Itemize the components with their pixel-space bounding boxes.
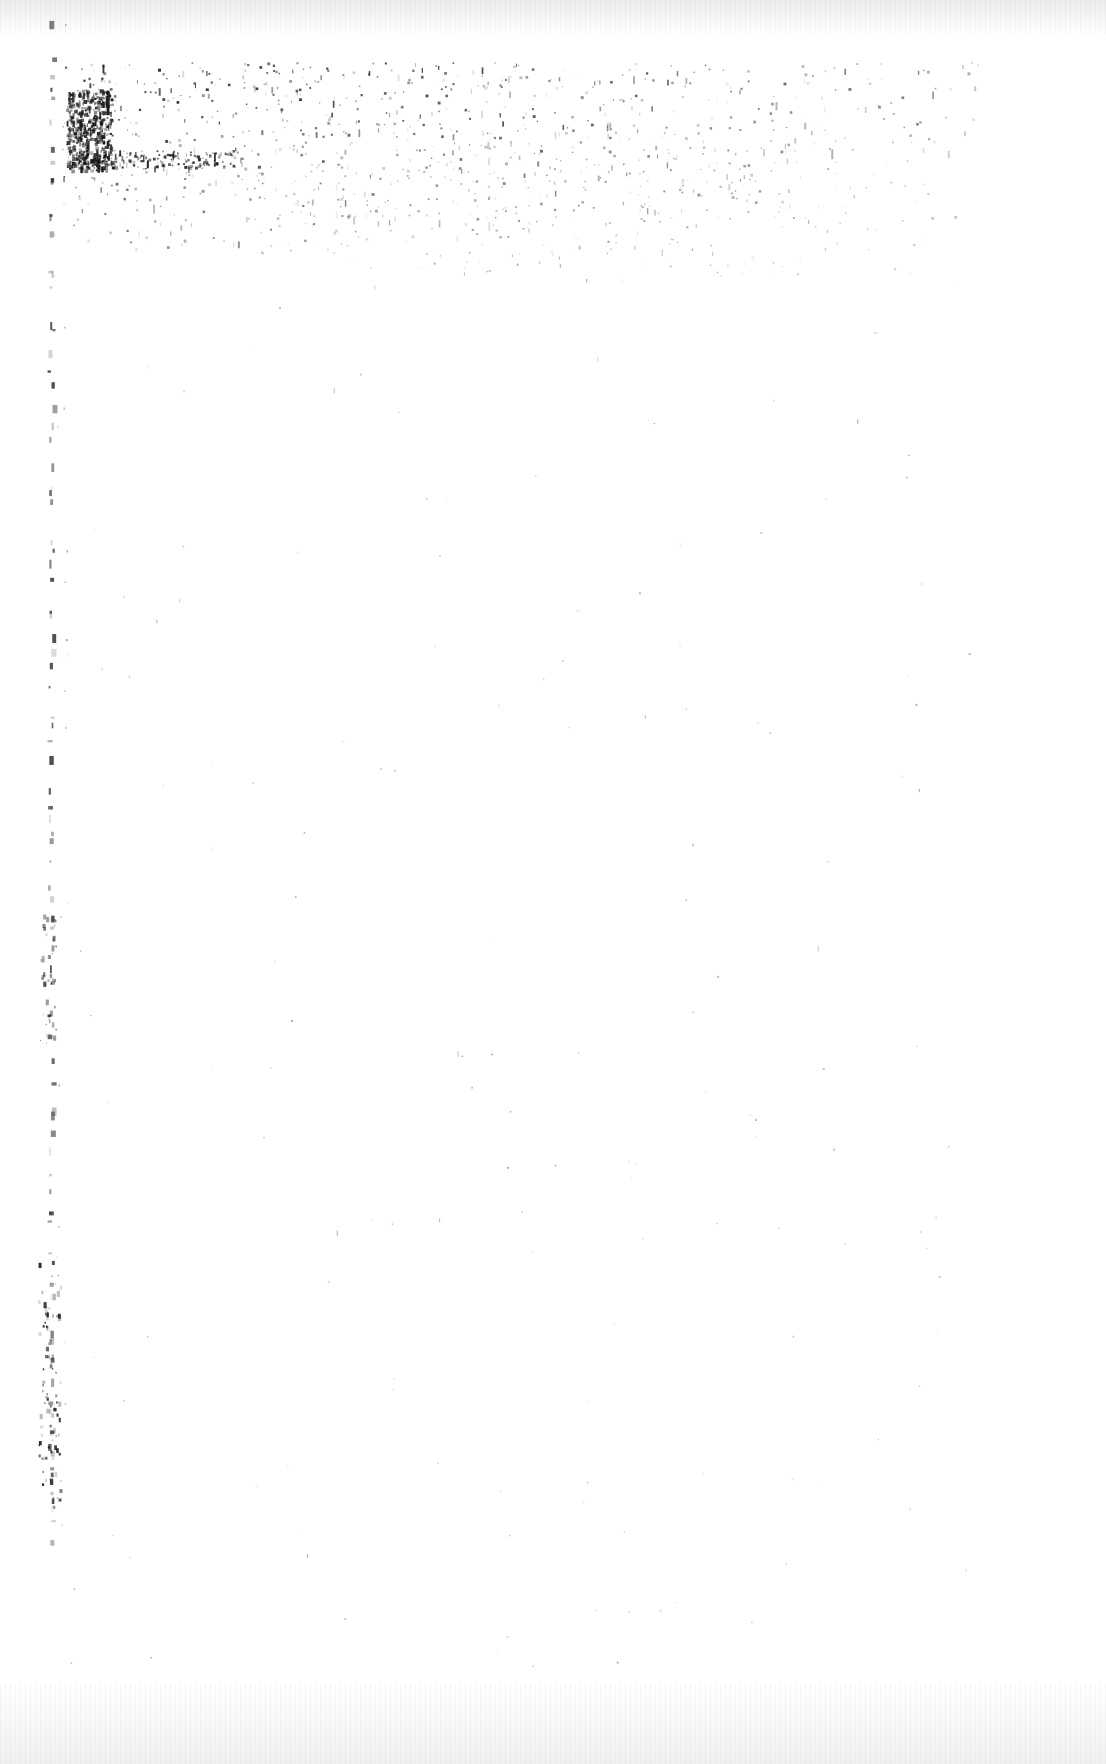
scan-edge-bottom [0,1684,1106,1764]
scanned-page [0,0,1106,1764]
scan-edge-top [0,0,1106,34]
left-margin-mark-column [0,0,1106,1764]
ink-residue-noise-layer [0,0,1106,1764]
